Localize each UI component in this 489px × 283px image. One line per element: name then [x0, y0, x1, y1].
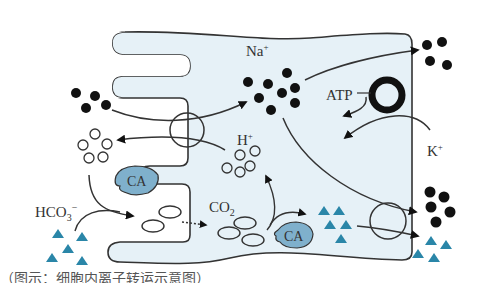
co2-molecules-lumen [142, 206, 181, 232]
hco3-triangles-exterior [412, 236, 452, 262]
hco3-triangles-lumen [46, 229, 88, 265]
na-particles-lumen [71, 88, 111, 113]
svg-text:CA: CA [127, 174, 147, 189]
cropped-caption: （图示：细胞内离子转运示意图） [0, 272, 489, 283]
na-particles-exterior-top [422, 37, 452, 70]
svg-text:CA: CA [284, 229, 304, 244]
hco3-label: HCO3− [35, 202, 78, 223]
ca-enzyme-apical: CA [115, 166, 158, 195]
atp-label: ATP [326, 87, 353, 103]
na-particles-exterior-bottom [425, 187, 456, 228]
k-label: K+ [427, 142, 443, 159]
cell-transport-diagram: Na+ H+ [0, 0, 489, 283]
arrow-hco3-lumen [75, 211, 120, 231]
h-particles-lumen [78, 129, 112, 163]
